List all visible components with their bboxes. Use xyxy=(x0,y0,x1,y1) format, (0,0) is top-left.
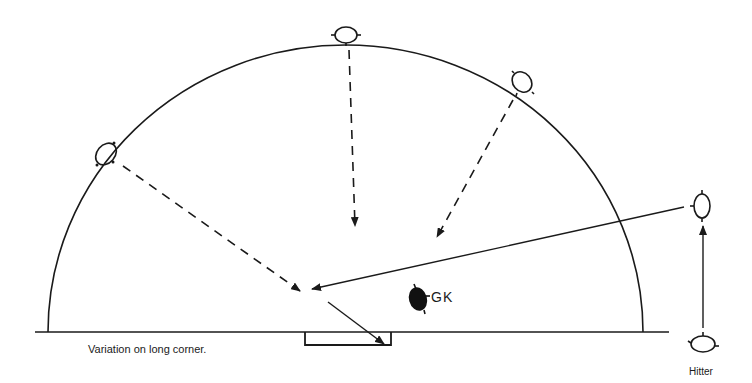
goalkeeper-icon xyxy=(406,284,430,314)
goal xyxy=(305,332,391,345)
hitter-label: Hitter xyxy=(689,366,713,377)
field-diagram xyxy=(0,0,752,383)
hitter-icon xyxy=(688,332,719,352)
diagram-canvas: GK Hitter Variation on long corner. xyxy=(0,0,752,383)
player-top-icon xyxy=(331,27,361,46)
run-left-player xyxy=(123,166,300,291)
player-left-icon xyxy=(91,139,120,169)
goalkeeper-label: GK xyxy=(431,289,453,305)
shot-to-goal xyxy=(328,302,384,344)
player-upper-right-icon xyxy=(508,68,536,96)
player-right-icon xyxy=(690,190,710,222)
shooting-circle-arc xyxy=(48,45,643,332)
diagram-caption: Variation on long corner. xyxy=(88,343,206,355)
run-upper-right-player xyxy=(437,100,513,237)
run-top-player xyxy=(349,50,355,226)
pass-right-player-to-stick xyxy=(312,207,684,289)
